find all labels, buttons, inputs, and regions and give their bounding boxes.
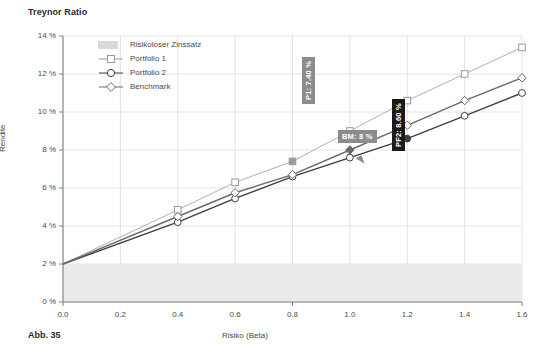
annotation-p1: P1: 7.40 % — [302, 57, 315, 104]
figure-caption: Abb. 35 — [28, 330, 61, 340]
legend-item-1[interactable]: Risikoloser Zinssatz — [98, 38, 201, 52]
square-icon — [98, 53, 124, 65]
x-tick-label: 0.0 — [43, 310, 83, 319]
y-tick-label: 12 % — [24, 69, 56, 78]
risk-free-band — [63, 264, 522, 302]
legend-item-3[interactable]: Portfolio 2 — [98, 66, 201, 80]
chart-canvas — [0, 0, 556, 354]
annotation-arrows — [356, 155, 365, 163]
y-tick-label: 14 % — [24, 31, 56, 40]
x-axis-label: Risiko (Beta) — [222, 331, 268, 340]
figure-container: Treynor Ratio 0 %2 %4 %6 %8 %10 %12 %14 … — [0, 0, 556, 354]
x-tick-label: 1.0 — [330, 310, 370, 319]
x-tick-label: 0.4 — [158, 310, 198, 319]
y-tick-label: 8 % — [24, 145, 56, 154]
circle-icon — [98, 67, 124, 79]
legend-item-4[interactable]: Benchmark — [98, 80, 201, 94]
x-tick-label: 0.8 — [273, 310, 313, 319]
legend-label: Benchmark — [130, 81, 170, 93]
y-tick-label: 2 % — [24, 259, 56, 268]
legend-label: Portfolio 1 — [130, 53, 166, 65]
y-tick-label: 4 % — [24, 221, 56, 230]
legend-label: Risikoloser Zinssatz — [130, 39, 201, 51]
y-axis-label: Rendite — [0, 124, 7, 152]
chart-legend: Risikoloser ZinssatzPortfolio 1Portfolio… — [98, 38, 201, 94]
annotation-bm: BM: 8 % — [338, 130, 377, 143]
legend-label: Portfolio 2 — [130, 67, 166, 79]
legend-item-2[interactable]: Portfolio 1 — [98, 52, 201, 66]
x-tick-label: 1.4 — [445, 310, 485, 319]
y-tick-label: 6 % — [24, 183, 56, 192]
y-tick-label: 10 % — [24, 107, 56, 116]
x-tick-label: 1.2 — [387, 310, 427, 319]
x-tick-label: 0.6 — [215, 310, 255, 319]
annotation-pf2: PF2: 8.60 % — [392, 99, 405, 151]
diamond-icon — [98, 81, 124, 93]
y-tick-label: 0 % — [24, 297, 56, 306]
band-swatch — [98, 39, 124, 51]
x-tick-label: 0.2 — [100, 310, 140, 319]
x-tick-label: 1.6 — [502, 310, 542, 319]
